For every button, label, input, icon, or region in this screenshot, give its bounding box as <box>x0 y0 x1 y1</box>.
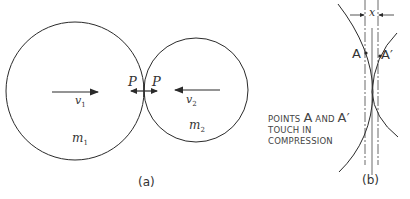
note-line-3: COMPRESSION <box>268 136 350 147</box>
diagram-graphics <box>0 0 410 199</box>
note-line-2: TOUCH IN <box>268 125 350 136</box>
force-left-label: P <box>128 74 137 89</box>
mass2-label: m2 <box>189 118 205 134</box>
velocity2-label: v2 <box>186 93 197 108</box>
mass1-label: m1 <box>72 131 88 147</box>
point-a <box>364 51 367 54</box>
note-line-1: POINTS A AND A′ <box>268 112 350 125</box>
caption-b: (b) <box>362 173 379 187</box>
dimension-x-label: x <box>369 6 375 19</box>
point-a-label: A <box>352 46 361 61</box>
point-a-prime-label: A′ <box>381 47 393 62</box>
compression-note: POINTS A AND A′ TOUCH IN COMPRESSION <box>268 112 350 147</box>
collision-diagram: P P v1 v2 m1 m2 (a) x A A′ POINTS A AND … <box>0 0 410 199</box>
velocity1-label: v1 <box>75 94 86 109</box>
force-right-label: P <box>152 74 161 89</box>
caption-a: (a) <box>138 175 155 189</box>
